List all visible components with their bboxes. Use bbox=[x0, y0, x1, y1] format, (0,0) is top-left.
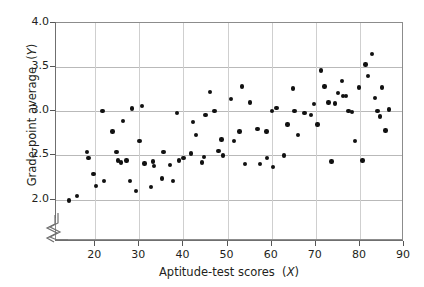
data-point bbox=[237, 129, 241, 133]
data-point bbox=[340, 79, 344, 83]
x-axis-tick bbox=[138, 241, 139, 246]
y-axis-tick-label: 2.5 bbox=[32, 148, 50, 159]
data-point bbox=[383, 128, 387, 132]
data-point bbox=[124, 158, 128, 162]
data-point bbox=[189, 151, 193, 155]
data-point bbox=[258, 162, 262, 166]
data-point bbox=[336, 91, 340, 95]
data-point bbox=[128, 179, 132, 183]
data-point bbox=[366, 74, 370, 78]
x-axis-tick-label: 20 bbox=[79, 249, 109, 260]
gridline-horizontal bbox=[56, 155, 402, 156]
gridline-vertical bbox=[139, 23, 140, 239]
data-point bbox=[265, 156, 269, 160]
data-point bbox=[67, 198, 71, 202]
data-point bbox=[309, 113, 313, 117]
data-point bbox=[208, 90, 212, 94]
plot-area bbox=[55, 22, 403, 240]
x-axis-variable: X bbox=[287, 265, 295, 279]
gridline-vertical bbox=[316, 23, 317, 239]
data-point bbox=[152, 164, 156, 168]
x-axis-tick bbox=[94, 241, 95, 246]
data-point bbox=[102, 179, 106, 183]
data-point bbox=[130, 106, 134, 110]
x-axis-label-paren: (X) bbox=[278, 265, 299, 279]
data-point bbox=[110, 129, 114, 133]
data-point bbox=[285, 122, 289, 126]
x-axis-line bbox=[55, 240, 403, 241]
data-point bbox=[380, 85, 384, 89]
data-point bbox=[370, 52, 374, 56]
data-point bbox=[255, 127, 259, 131]
data-point bbox=[202, 155, 206, 159]
axis-break-icon bbox=[44, 213, 70, 243]
data-point bbox=[229, 97, 233, 101]
data-point bbox=[353, 139, 357, 143]
x-axis-tick-label: 80 bbox=[344, 249, 374, 260]
data-point bbox=[243, 162, 247, 166]
data-point bbox=[387, 107, 391, 111]
x-axis-tick-label: 40 bbox=[167, 249, 197, 260]
x-axis-tick-label: 70 bbox=[300, 249, 330, 260]
x-axis-tick bbox=[403, 241, 404, 246]
x-axis-tick-label: 90 bbox=[388, 249, 418, 260]
data-point bbox=[151, 159, 155, 163]
x-axis-tick-label: 60 bbox=[256, 249, 286, 260]
data-point bbox=[94, 184, 98, 188]
data-point bbox=[322, 84, 326, 88]
data-point bbox=[219, 137, 223, 141]
data-point bbox=[326, 100, 330, 104]
data-point bbox=[160, 176, 164, 180]
data-point bbox=[137, 139, 141, 143]
data-point bbox=[373, 96, 377, 100]
data-point bbox=[274, 106, 278, 110]
data-point bbox=[91, 172, 95, 176]
data-point bbox=[240, 84, 244, 88]
gridline-horizontal bbox=[56, 67, 402, 68]
scatter-plot-figure: Aptitude-test scores (X) Grade-point ave… bbox=[0, 0, 424, 287]
y-axis-tick-label: 3.5 bbox=[32, 60, 50, 71]
x-axis-tick bbox=[359, 241, 360, 246]
y-axis-label-text: Grade-point average bbox=[25, 67, 39, 186]
data-point bbox=[216, 149, 220, 153]
data-point bbox=[329, 159, 333, 163]
data-point bbox=[200, 160, 204, 164]
gridline-vertical bbox=[228, 23, 229, 239]
y-axis-tick bbox=[50, 199, 55, 200]
gridline-horizontal bbox=[56, 200, 402, 201]
data-point bbox=[248, 100, 252, 104]
data-point bbox=[86, 156, 90, 160]
y-axis-variable: Y bbox=[25, 48, 39, 55]
data-point bbox=[119, 160, 123, 164]
data-point bbox=[264, 129, 268, 133]
data-point bbox=[161, 150, 165, 154]
data-point bbox=[291, 86, 295, 90]
data-point bbox=[363, 62, 367, 66]
x-axis-tick-label: 50 bbox=[212, 249, 242, 260]
data-point bbox=[134, 189, 138, 193]
data-point bbox=[270, 109, 274, 113]
data-point bbox=[181, 156, 185, 160]
data-point bbox=[75, 194, 79, 198]
y-axis-tick-label: 3.0 bbox=[32, 104, 50, 115]
data-point bbox=[171, 179, 175, 183]
y-axis-tick bbox=[50, 154, 55, 155]
data-point bbox=[350, 110, 354, 114]
data-point bbox=[315, 122, 319, 126]
x-axis-label-text: Aptitude-test scores bbox=[159, 265, 275, 279]
x-axis-tick bbox=[227, 241, 228, 246]
data-point bbox=[375, 109, 379, 113]
data-point bbox=[357, 85, 361, 89]
x-axis-tick bbox=[182, 241, 183, 246]
data-point bbox=[175, 111, 179, 115]
data-point bbox=[282, 153, 286, 157]
data-point bbox=[142, 161, 146, 165]
data-point bbox=[292, 109, 296, 113]
data-point bbox=[203, 113, 207, 117]
data-point bbox=[212, 109, 216, 113]
x-axis-tick-label: 30 bbox=[123, 249, 153, 260]
data-point bbox=[191, 120, 195, 124]
data-point bbox=[271, 165, 275, 169]
x-axis-tick bbox=[271, 241, 272, 246]
gridline-vertical bbox=[360, 23, 361, 239]
